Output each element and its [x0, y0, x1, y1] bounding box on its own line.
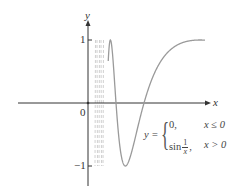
formula-case2-condition: x > 0	[204, 139, 226, 150]
formula-lhs: y =	[144, 129, 158, 140]
origin-label: 0	[80, 107, 86, 118]
fraction-denominator: x	[182, 148, 188, 156]
formula-case1-condition: x ≤ 0	[204, 119, 225, 130]
origin-dot	[87, 102, 90, 105]
piecewise-formula: y = { 0, x ≤ 0 sin1x, x > 0	[144, 116, 231, 156]
x-axis-label: x	[213, 97, 218, 108]
y-tick-label-1: 1	[80, 34, 86, 45]
y-axis-label: y	[85, 10, 90, 21]
plot-area	[0, 0, 231, 190]
formula-case1-expr: 0,	[169, 119, 177, 130]
formula-comma: ,	[189, 141, 192, 152]
x-axis-arrow-icon	[205, 101, 211, 106]
formula-sin: sin	[169, 141, 181, 152]
formula-case2-expr: sin1x,	[169, 139, 192, 156]
brace-icon: {	[161, 116, 169, 152]
y-tick-label-neg1: −1	[74, 160, 86, 171]
formula-fraction: 1x	[182, 139, 188, 156]
